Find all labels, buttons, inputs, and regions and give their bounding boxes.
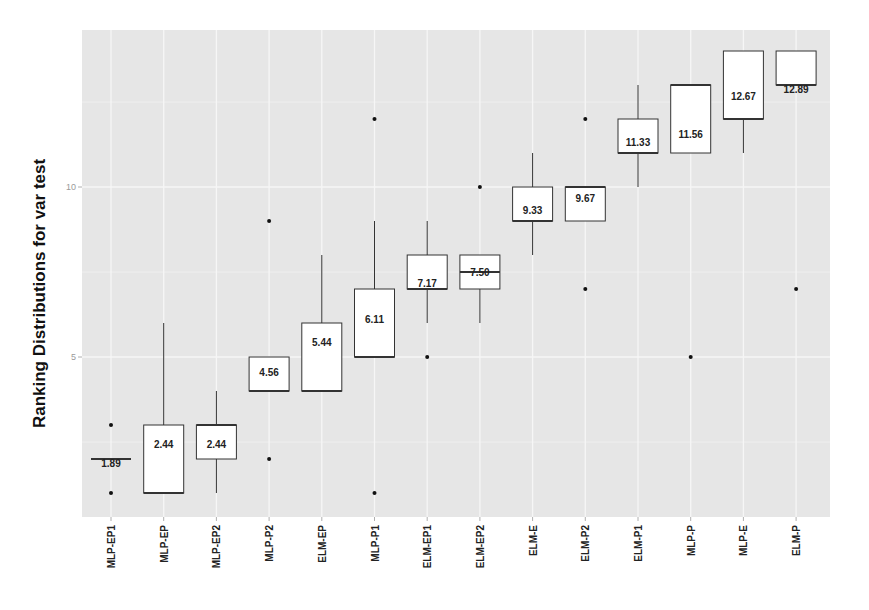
x-axis: MLP-EP1MLP-EPMLP-EP2MLP-P2ELM-EPMLP-P1EL… [106,517,802,568]
plot-panel [82,30,830,517]
outlier-point [373,117,377,121]
y-axis: 510 [66,182,82,362]
mean-label: 6.11 [365,314,384,325]
outlier-point [583,287,587,291]
x-tick-label: MLP-EP [159,525,170,563]
x-tick-label: ELM-EP2 [475,525,486,569]
x-tick-label: ELM-P [791,525,802,556]
mean-label: 7.50 [470,267,490,278]
x-tick-label: MLP-EP2 [211,525,222,569]
boxplot-chart: 510 1.892.442.444.565.446.117.177.509.33… [0,0,869,610]
mean-label: 11.33 [626,137,651,148]
x-tick-label: MLP-EP1 [106,525,117,569]
y-tick-label: 10 [66,182,76,192]
outlier-point [794,287,798,291]
x-tick-label: ELM-EP [317,525,328,563]
y-tick-label: 5 [71,352,76,362]
outlier-point [373,491,377,495]
x-tick-label: ELM-EP1 [422,525,433,569]
iqr-box [302,323,342,391]
outlier-point [478,185,482,189]
mean-label: 9.33 [523,205,543,216]
outlier-point [689,355,693,359]
y-axis-title: Ranking Distributions for var test [30,159,49,429]
iqr-box [723,51,763,119]
x-tick-label: MLP-E [738,525,749,556]
x-tick-label: ELM-P2 [580,525,591,562]
mean-label: 4.56 [259,367,279,378]
mean-label: 12.89 [784,84,809,95]
x-tick-label: MLP-P1 [370,525,381,562]
mean-label: 9.67 [576,193,596,204]
iqr-box [144,425,184,493]
outlier-point [109,491,113,495]
mean-label: 2.44 [154,439,174,450]
outlier-point [425,355,429,359]
outlier-point [583,117,587,121]
iqr-box [776,51,816,85]
x-tick-label: MLP-P [686,525,697,556]
outlier-point [267,219,271,223]
x-tick-label: ELM-P1 [633,525,644,562]
mean-label: 5.44 [312,337,332,348]
outlier-point [109,423,113,427]
mean-label: 12.67 [731,91,756,102]
mean-label: 1.89 [101,458,121,469]
outlier-point [267,457,271,461]
iqr-box [671,85,711,153]
mean-label: 2.44 [207,439,227,450]
mean-label: 11.56 [678,129,703,140]
x-tick-label: MLP-P2 [264,525,275,562]
x-tick-label: ELM-E [528,525,539,556]
mean-label: 7.17 [417,278,437,289]
